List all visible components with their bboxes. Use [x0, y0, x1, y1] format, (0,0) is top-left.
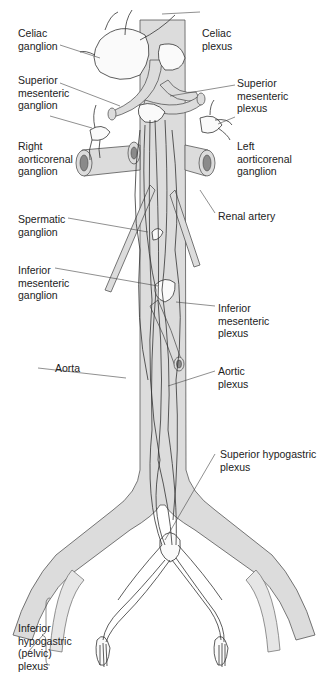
label-superior-mesenteric-plexus: Superior mesenteric plexus: [237, 77, 288, 115]
label-inferior-hypogastric-plexus: Inferior hypogastric (pelvic) plexus: [18, 622, 72, 672]
label-spermatic-ganglion: Spermatic ganglion: [18, 213, 65, 238]
label-aorta: Aorta: [55, 362, 80, 375]
label-right-aorticorenal-ganglion: Right aorticorenal ganglion: [18, 140, 73, 178]
label-inferior-mesenteric-plexus: Inferior mesenteric plexus: [218, 302, 269, 340]
label-celiac-plexus: Celiac plexus: [202, 27, 232, 52]
label-renal-artery: Renal artery: [218, 210, 275, 223]
label-superior-hypogastric-plexus: Superior hypogastric plexus: [220, 448, 316, 473]
label-celiac-ganglion: Celiac ganglion: [18, 27, 58, 52]
label-left-aorticorenal-ganglion: Left aorticorenal ganglion: [237, 140, 292, 178]
label-aortic-plexus: Aortic plexus: [218, 365, 248, 390]
label-superior-mesenteric-ganglion: Superior mesenteric ganglion: [18, 74, 69, 112]
label-inferior-mesenteric-ganglion: Inferior mesenteric ganglion: [18, 264, 69, 302]
